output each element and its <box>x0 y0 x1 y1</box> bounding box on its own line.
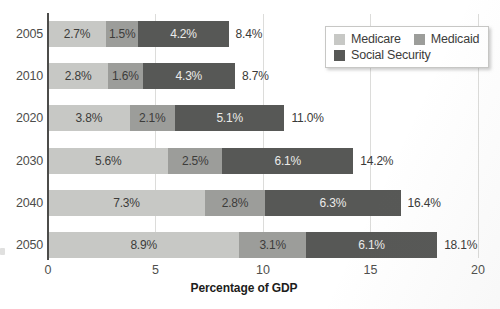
bar-row-2020: 20203.8%2.1%5.1%11.0% <box>0 105 500 131</box>
segment-value-label: 2.5% <box>168 148 222 174</box>
segment-value-label: 6.3% <box>265 190 400 216</box>
legend-item-medicaid: Medicaid <box>414 32 479 46</box>
legend-row-1: Medicare Medicaid <box>334 31 479 47</box>
legend-label-medicare: Medicare <box>351 32 401 46</box>
stacked-bar-chart: 0510152020052.7%1.5%4.2%8.4%20102.8%1.6%… <box>0 0 500 309</box>
segment-value-label: 1.6% <box>108 63 142 89</box>
bar-segment-medicare: 7.3% <box>48 190 205 216</box>
segment-value-label: 2.7% <box>48 21 106 47</box>
year-label: 2010 <box>0 63 43 89</box>
year-label: 2020 <box>0 105 43 131</box>
medicaid-swatch-icon <box>414 34 425 45</box>
bar-segment-social-security: 5.1% <box>175 105 285 131</box>
social-security-swatch-icon <box>334 50 345 61</box>
legend: Medicare Medicaid Social Security <box>325 26 489 68</box>
total-value-label: 16.4% <box>408 190 441 216</box>
bar-segment-medicare: 2.8% <box>48 63 108 89</box>
bar-row-2030: 20305.6%2.5%6.1%14.2% <box>0 148 500 174</box>
bar-segment-medicaid: 1.5% <box>106 21 138 47</box>
legend-label-medicaid: Medicaid <box>431 32 479 46</box>
year-label: 2005 <box>0 21 43 47</box>
medicare-swatch-icon <box>334 34 345 45</box>
segment-value-label: 5.1% <box>175 105 285 131</box>
legend-row-2: Social Security <box>334 47 479 63</box>
bar-segment-medicare: 5.6% <box>48 148 168 174</box>
bar-segment-medicaid: 1.6% <box>108 63 142 89</box>
segment-value-label: 2.8% <box>48 63 108 89</box>
segment-value-label: 4.2% <box>138 21 228 47</box>
bar-segment-social-security: 6.3% <box>265 190 400 216</box>
x-axis-title: Percentage of GDP <box>144 281 344 295</box>
x-tick-label: 0 <box>31 263 65 277</box>
bar-segment-medicare: 8.9% <box>48 232 239 258</box>
bar-segment-social-security: 4.2% <box>138 21 228 47</box>
segment-value-label: 7.3% <box>48 190 205 216</box>
total-value-label: 14.2% <box>360 148 393 174</box>
segment-value-label: 2.8% <box>205 190 265 216</box>
year-label: 2030 <box>0 148 43 174</box>
bar-segment-social-security: 4.3% <box>143 63 235 89</box>
bar-segment-medicaid: 2.8% <box>205 190 265 216</box>
gridline <box>155 14 156 258</box>
legend-item-medicare: Medicare <box>334 32 401 46</box>
bar-segment-medicare: 3.8% <box>48 105 130 131</box>
y-axis-line <box>47 13 49 260</box>
year-label: 2050 <box>0 232 43 258</box>
bar-segment-medicaid: 2.1% <box>130 105 175 131</box>
segment-value-label: 8.9% <box>48 232 239 258</box>
segment-value-label: 3.1% <box>239 232 306 258</box>
total-value-label: 11.0% <box>292 105 324 131</box>
bar-segment-medicare: 2.7% <box>48 21 106 47</box>
x-tick-label: 15 <box>354 263 388 277</box>
segment-value-label: 1.5% <box>106 21 138 47</box>
total-value-label: 18.1% <box>444 232 477 258</box>
legend-label-social-security: Social Security <box>351 48 431 62</box>
x-tick-label: 20 <box>461 263 495 277</box>
bar-segment-social-security: 6.1% <box>222 148 353 174</box>
total-value-label: 8.4% <box>236 21 263 47</box>
segment-value-label: 3.8% <box>48 105 130 131</box>
segment-value-label: 6.1% <box>306 232 437 258</box>
year-label: 2040 <box>0 190 43 216</box>
segment-value-label: 2.1% <box>130 105 175 131</box>
x-tick-label: 10 <box>246 263 280 277</box>
segment-value-label: 5.6% <box>48 148 168 174</box>
bar-segment-social-security: 6.1% <box>306 232 437 258</box>
bar-row-2040: 20407.3%2.8%6.3%16.4% <box>0 190 500 216</box>
x-tick-label: 5 <box>139 263 173 277</box>
segment-value-label: 4.3% <box>143 63 235 89</box>
total-value-label: 8.7% <box>242 63 269 89</box>
legend-item-social-security: Social Security <box>334 48 431 62</box>
bar-segment-medicaid: 3.1% <box>239 232 306 258</box>
bar-row-2050: 20508.9%3.1%6.1%18.1% <box>0 232 500 258</box>
gridline <box>263 14 264 258</box>
segment-value-label: 6.1% <box>222 148 353 174</box>
scan-artifact <box>0 248 5 255</box>
bar-segment-medicaid: 2.5% <box>168 148 222 174</box>
